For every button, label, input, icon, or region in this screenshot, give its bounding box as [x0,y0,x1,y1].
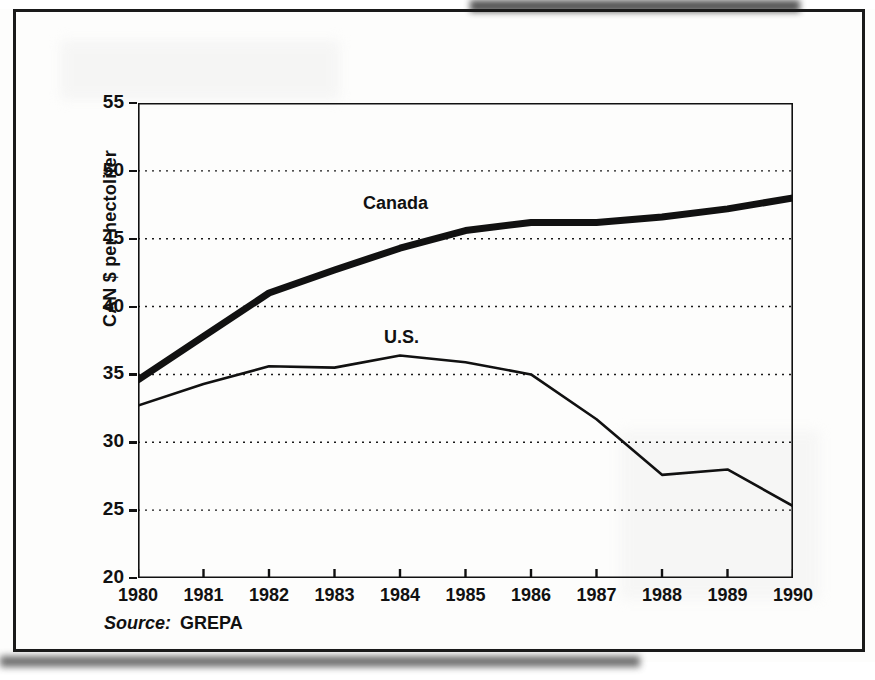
chart-svg [138,103,793,578]
x-tick-label: 1986 [496,585,566,606]
y-tick-mark [129,102,137,104]
x-tick-label: 1988 [627,585,697,606]
y-tick-label: 30 [80,430,124,452]
y-tick-mark [129,306,137,308]
x-tick-label: 1983 [300,585,370,606]
source-note: Source:GREPA [104,613,243,634]
y-tick-mark [129,373,137,375]
y-tick-mark [129,441,137,443]
x-tick-label: 1990 [758,585,828,606]
y-tick-mark [129,170,137,172]
y-tick-mark [129,577,137,579]
x-tick-label: 1987 [562,585,632,606]
x-tick-label: 1981 [169,585,239,606]
x-tick-label: 1989 [693,585,763,606]
series-line-canada [138,198,793,380]
y-tick-mark [129,509,137,511]
x-tick-label: 1985 [431,585,501,606]
y-tick-label: 25 [80,498,124,520]
plot-area [138,103,793,578]
x-tick-label: 1982 [234,585,304,606]
y-tick-mark [129,238,137,240]
x-tick-label: 1980 [103,585,173,606]
y-tick-label: 40 [80,295,124,317]
scan-artifact-bottom [0,656,640,667]
x-tick-label: 1984 [365,585,435,606]
y-tick-label: 50 [80,159,124,181]
series-label-canada: Canada [363,193,428,214]
series-line-us [138,355,793,506]
y-tick-label: 35 [80,362,124,384]
source-label: Source: [104,613,171,633]
series-label-us: U.S. [384,327,419,348]
y-tick-label: 55 [80,91,124,113]
source-value: GREPA [180,613,243,633]
y-tick-label: 45 [80,227,124,249]
figure-page: CAN $ per hectoliter 2025303540455055 19… [0,0,875,680]
